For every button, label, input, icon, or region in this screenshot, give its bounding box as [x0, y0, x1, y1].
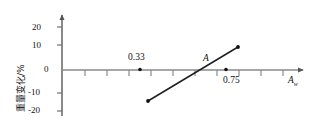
- data-point-high: [236, 45, 240, 49]
- data-series-line: [148, 47, 238, 101]
- y-axis: [57, 15, 62, 116]
- x-axis: [62, 70, 303, 76]
- data-point-low: [146, 99, 150, 103]
- data-point-0-75: [224, 68, 228, 72]
- chart-canvas: [0, 0, 316, 126]
- data-markers: [138, 45, 240, 103]
- chart-figure: 重量变化/% 20 10 0 -10 -20 0.33 A 0.75 Aw: [0, 0, 316, 126]
- data-point-0-33: [138, 68, 142, 72]
